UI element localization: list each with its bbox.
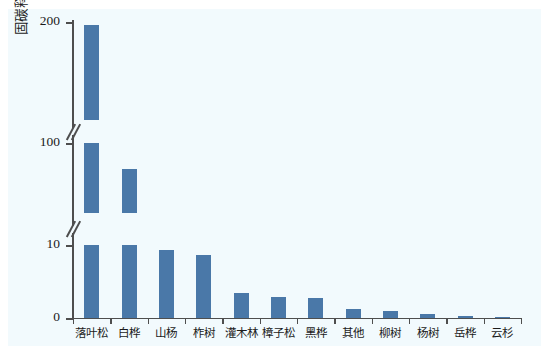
bar-灌木林 — [234, 293, 249, 318]
bar-山杨 — [159, 250, 174, 318]
y-tick-label-10: 10 — [20, 236, 60, 252]
bar-杨树 — [420, 314, 435, 318]
bar-axis-break-gap-2 — [84, 120, 99, 143]
bar-樟子松 — [271, 297, 286, 318]
bar-云杉 — [495, 317, 510, 318]
chart-figure: 固碳释氧（亿元/年） 010100200 落叶松白桦山杨柞树灌木林樟子松黑桦其他… — [0, 0, 549, 359]
plot-area — [73, 20, 521, 318]
bar-岳桦 — [458, 316, 473, 318]
bar-黑桦 — [308, 298, 323, 318]
y-tick-label-0: 0 — [20, 309, 60, 325]
bar-落叶松 — [84, 25, 99, 318]
x-label-云杉: 云杉 — [472, 324, 532, 340]
bar-axis-break-gap-1 — [122, 213, 137, 245]
bar-柞树 — [196, 255, 211, 318]
y-tick-label-200: 200 — [20, 13, 60, 29]
bar-其他 — [346, 309, 361, 318]
bar-柳树 — [383, 311, 398, 318]
y-tick-label-100: 100 — [20, 134, 60, 150]
bar-axis-break-gap-1 — [84, 213, 99, 245]
